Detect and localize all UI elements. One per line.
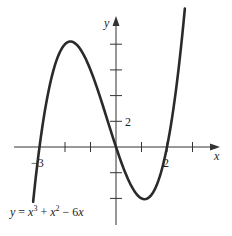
- chart-canvas: x y −3 2 2 y = x3 + x2 − 6x: [0, 0, 232, 236]
- x-tick-label-neg3: −3: [31, 156, 44, 170]
- y-axis-label: y: [103, 16, 110, 30]
- equation-label: y = x3 + x2 − 6x: [9, 204, 84, 219]
- cubic-curve: [33, 9, 185, 202]
- x-axis-label: x: [213, 149, 220, 163]
- x-tick-label-2: 2: [163, 156, 169, 170]
- y-tick-label-2: 2: [125, 115, 131, 129]
- y-axis-arrow-icon: [113, 16, 120, 26]
